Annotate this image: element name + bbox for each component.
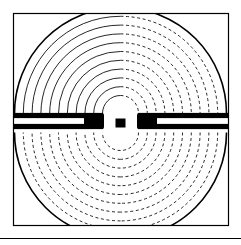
right-electrode-tip-blob bbox=[137, 113, 157, 129]
figure-root: Electrostatic field map of a bow-tie dip… bbox=[0, 0, 241, 245]
left-electrode-tip-blob bbox=[84, 113, 104, 129]
field-diagram-canvas bbox=[0, 0, 241, 245]
center-stub bbox=[116, 119, 126, 128]
